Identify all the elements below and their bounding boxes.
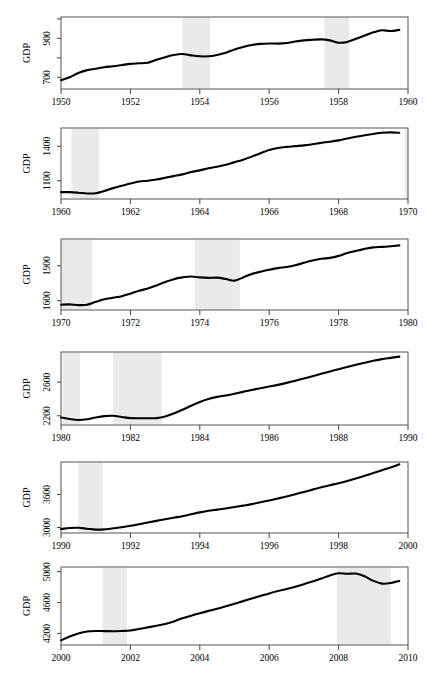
x-tick-label: 2006: [260, 653, 279, 663]
x-tick-label: 1980: [52, 433, 71, 443]
x-tick-label: 1950: [52, 97, 71, 107]
x-tick-label: 1970: [399, 207, 418, 217]
recession-band: [71, 129, 99, 199]
x-tick-label: 1960: [52, 207, 71, 217]
recession-band: [337, 568, 391, 645]
x-tick-label: 1972: [121, 318, 140, 328]
x-tick-label: 1990: [399, 433, 418, 443]
x-tick-label: 1978: [329, 318, 348, 328]
recession-band: [113, 353, 162, 425]
y-tick-label: 2200: [42, 406, 52, 425]
plot-box: [61, 462, 408, 533]
recession-band: [61, 240, 92, 310]
gdp-panel-6: 420046005000GDP200020022004200620082010: [0, 550, 426, 663]
x-tick-label: 1974: [190, 318, 209, 328]
gdp-panel-1: 700900GDP195019521954195619581960: [0, 0, 426, 113]
recession-band: [195, 240, 240, 310]
x-tick-label: 1968: [329, 207, 348, 217]
y-tick-label: 1600: [42, 291, 52, 310]
recession-band: [182, 18, 210, 89]
y-tick-label: 1400: [42, 137, 52, 156]
x-tick-label: 1980: [399, 318, 418, 328]
y-tick-label: 1100: [42, 171, 52, 190]
x-tick-label: 1970: [52, 318, 71, 328]
recession-band: [405, 129, 408, 199]
y-tick-label: 3600: [42, 485, 52, 504]
y-tick-label: 700: [42, 70, 52, 85]
y-axis-title: GDP: [21, 487, 32, 507]
y-axis-title: GDP: [21, 378, 32, 398]
gdp-series-line: [61, 132, 399, 193]
gdp-series-line: [61, 357, 399, 420]
x-tick-label: 1982: [121, 433, 140, 443]
x-tick-label: 2000: [52, 653, 71, 663]
x-tick-label: 1960: [399, 97, 418, 107]
x-tick-label: 1956: [260, 97, 279, 107]
x-tick-label: 1964: [190, 207, 209, 217]
recession-band: [325, 18, 349, 89]
x-tick-label: 1958: [329, 97, 348, 107]
x-tick-label: 1952: [121, 97, 140, 107]
recession-band: [78, 463, 102, 533]
gdp-panel-5: 30003600GDP199019921994199619982000: [0, 445, 426, 558]
x-tick-label: 1986: [260, 433, 279, 443]
y-tick-label: 4600: [42, 593, 52, 612]
x-tick-label: 2008: [329, 653, 348, 663]
y-tick-label: 1900: [42, 256, 52, 275]
y-axis-title: GDP: [21, 596, 32, 616]
x-tick-label: 1966: [260, 207, 279, 217]
y-tick-label: 900: [42, 31, 52, 46]
gdp-panel-2: 11001400GDP196019621964196619681970: [0, 111, 426, 224]
gdp-panel-3: 16001900GDP197019721974197619781980: [0, 222, 426, 335]
gdp-panel-4: 22002600GDP198019821984198619881990: [0, 335, 426, 448]
multi-panel-gdp-figure: 700900GDP1950195219541956195819601100140…: [0, 0, 426, 680]
recession-band: [103, 568, 127, 645]
y-tick-label: 5000: [42, 562, 52, 581]
y-tick-label: 2600: [42, 372, 52, 391]
y-axis-title: GDP: [21, 153, 32, 173]
x-tick-label: 2004: [190, 653, 209, 663]
x-tick-label: 1962: [121, 207, 140, 217]
x-tick-label: 1976: [260, 318, 279, 328]
x-tick-label: 1988: [329, 433, 348, 443]
gdp-series-line: [61, 464, 399, 529]
x-tick-label: 2002: [121, 653, 140, 663]
x-tick-label: 2010: [399, 653, 418, 663]
y-axis-title: GDP: [21, 264, 32, 284]
recession-band: [63, 353, 80, 425]
x-tick-label: 1954: [190, 97, 209, 107]
x-tick-label: 1984: [190, 433, 209, 443]
plot-box: [61, 17, 408, 89]
y-tick-label: 3000: [42, 518, 52, 537]
y-tick-label: 4200: [42, 624, 52, 643]
y-axis-title: GDP: [21, 43, 32, 63]
